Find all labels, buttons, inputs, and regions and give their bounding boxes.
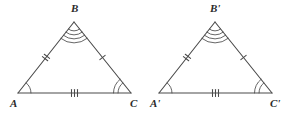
angle-arc-A-prime [167,83,172,93]
vertex-label-B: B [70,2,78,14]
tick-AB [44,54,49,58]
tick-A-primeB-prime [185,54,190,58]
angle-arc-B-prime [209,29,220,31]
triangle-a-prime-b-prime-c-prime: A'B'C' [149,2,280,109]
side-AB [18,22,74,93]
vertex-label-C-prime: C' [270,97,280,109]
tick-A-primeB-prime [183,57,188,61]
geometry-canvas: ABC A'B'C' [0,0,289,117]
tick-AB [42,57,47,61]
vertex-label-A: A [9,97,17,109]
angle-arc-C [114,79,121,93]
vertex-label-C: C [130,97,138,109]
congruent-triangles-figure: ABC A'B'C' [0,0,289,117]
angle-arc-B [66,32,82,35]
angle-arc-B [68,29,79,31]
angle-arc-C-prime [255,79,262,93]
angle-arc-B-prime [204,35,225,39]
vertex-label-A-prime: A' [149,97,160,109]
angle-arc-A [26,83,31,93]
angle-arc-C-prime [259,83,264,93]
side-A-primeB-prime [159,22,215,93]
angle-arc-B-prime [207,32,223,35]
vertex-label-B-prime: B' [209,2,220,14]
angle-arc-B [63,35,84,39]
angle-arc-C [118,83,123,93]
triangle-abc: ABC [9,2,138,109]
